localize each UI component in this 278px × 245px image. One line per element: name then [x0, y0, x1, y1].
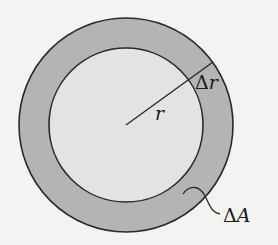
annulus-diagram: r Δr ΔA — [0, 0, 278, 245]
delta-r-label: Δr — [195, 71, 220, 93]
delta-a-variable: A — [235, 204, 251, 226]
delta-r-symbol: Δ — [195, 71, 209, 93]
diagram-svg: r Δr ΔA — [0, 0, 278, 245]
delta-a-label: ΔA — [223, 204, 250, 226]
delta-a-symbol: Δ — [223, 204, 237, 226]
